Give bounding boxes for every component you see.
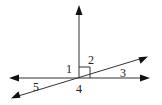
angle-label-2: 2 bbox=[88, 53, 94, 67]
arrowhead-upper-right-icon bbox=[139, 57, 149, 64]
arrowhead-right-icon bbox=[140, 75, 150, 82]
arrowhead-left-icon bbox=[9, 75, 19, 82]
right-angle-marker bbox=[79, 67, 90, 78]
angle-label-3: 3 bbox=[120, 66, 126, 80]
angle-label-1: 1 bbox=[66, 62, 72, 76]
arrowhead-up-icon bbox=[76, 5, 83, 15]
arrowhead-lower-left-icon bbox=[11, 91, 21, 98]
angle-label-5: 5 bbox=[33, 80, 39, 94]
angle-label-4: 4 bbox=[76, 82, 82, 96]
angle-diagram: 1 2 3 4 5 bbox=[0, 0, 162, 105]
